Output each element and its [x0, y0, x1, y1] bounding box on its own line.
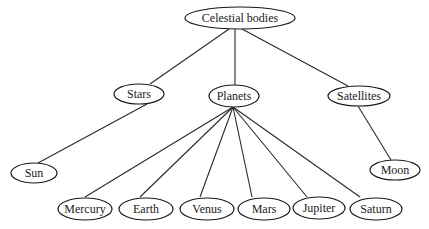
node-label: Earth: [133, 202, 159, 216]
node-label: Satellites: [337, 89, 381, 103]
edge-root-satellites: [242, 29, 348, 86]
node-saturn: Saturn: [350, 198, 402, 220]
edge-satellites-moon: [358, 106, 391, 160]
edge-root-stars: [150, 29, 229, 84]
node-label: Jupiter: [303, 201, 336, 215]
node-label: Venus: [192, 202, 222, 216]
node-label: Celestial bodies: [202, 11, 279, 25]
node-satellites: Satellites: [328, 86, 390, 106]
node-label: Stars: [127, 87, 151, 101]
node-stars: Stars: [114, 84, 164, 104]
node-earth: Earth: [119, 198, 173, 220]
node-jupiter: Jupiter: [293, 197, 345, 219]
edge-planets-earth: [140, 107, 233, 197]
node-mars: Mars: [238, 198, 290, 220]
edge-planets-mars: [233, 107, 252, 197]
node-celestial-bodies: Celestial bodies: [185, 7, 295, 29]
edge-planets-mercury: [85, 107, 233, 197]
node-label: Mars: [252, 202, 277, 216]
tree-diagram: Celestial bodies Stars Planets Satellite…: [0, 0, 429, 229]
edge-planets-venus: [200, 107, 233, 197]
node-mercury: Mercury: [58, 198, 112, 220]
node-venus: Venus: [180, 198, 234, 220]
node-label: Sun: [25, 166, 44, 180]
node-label: Mercury: [64, 202, 105, 216]
node-moon: Moon: [370, 160, 420, 180]
edge-stars-sun: [38, 104, 147, 163]
edges: [38, 29, 391, 197]
node-label: Moon: [381, 163, 410, 177]
node-label: Saturn: [360, 202, 391, 216]
node-planets: Planets: [209, 85, 259, 107]
node-label: Planets: [217, 89, 252, 103]
node-sun: Sun: [11, 163, 57, 183]
